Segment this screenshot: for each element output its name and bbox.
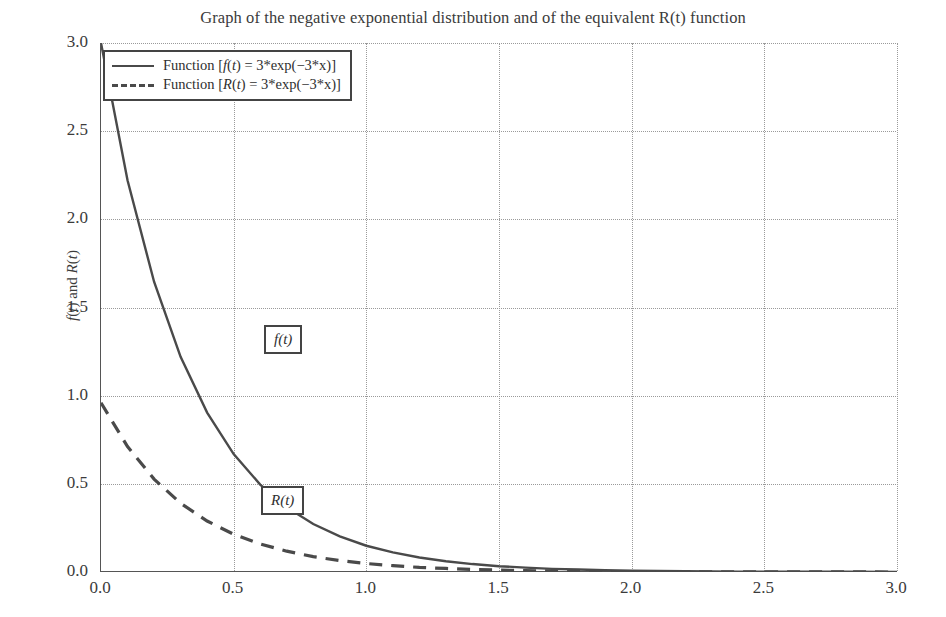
legend-label-r: Function [R(t) = 3*exp(−3*x)] [163,76,341,93]
legend-label-f: Function [f(t) = 3*exp(−3*x)] [163,57,336,74]
legend-swatch-solid-icon [112,61,154,71]
curve-ft [101,43,897,572]
y-axis-label: f(t) and R(t) [64,206,81,366]
curve-layer [101,43,897,572]
x-tick-label: 1.5 [458,578,538,598]
x-tick-label: 2.0 [591,578,671,598]
legend-swatch-dashed-icon [112,80,154,90]
x-tick-label: 2.5 [723,578,803,598]
y-tick-label: 1.0 [36,385,88,405]
legend-item-r: Function [R(t) = 3*exp(−3*x)] [112,75,341,94]
chart-figure: Graph of the negative exponential distri… [0,0,946,617]
curve-rt [101,403,897,572]
x-tick-label: 1.0 [325,578,405,598]
chart-title: Graph of the negative exponential distri… [0,8,946,28]
y-tick-label: 0.5 [36,473,88,493]
annotation-r-of-t: R(t) [261,486,304,515]
x-tick-label: 0.0 [60,578,140,598]
y-tick-label: 3.0 [36,32,88,52]
y-tick-label: 1.5 [36,297,88,317]
annotation-f-of-t: f(t) [264,325,302,354]
x-tick-label: 3.0 [856,578,936,598]
legend-item-f: Function [f(t) = 3*exp(−3*x)] [112,56,341,75]
y-tick-label: 0.0 [36,561,88,581]
x-tick-label: 0.5 [193,578,273,598]
y-tick-label: 2.0 [36,208,88,228]
y-tick-label: 2.5 [36,120,88,140]
chart-legend: Function [f(t) = 3*exp(−3*x)] Function [… [103,50,352,101]
gridline-vertical [897,43,898,571]
plot-area: f(t) R(t) [100,43,896,572]
